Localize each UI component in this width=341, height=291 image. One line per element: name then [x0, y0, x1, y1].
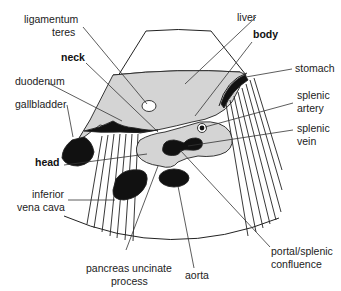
splenic-artery-lumen [200, 126, 205, 131]
label-pancreas-uncinate-process-2: process [111, 275, 148, 287]
label-head: head [35, 156, 60, 168]
sector-right-edge [211, 31, 246, 75]
label-portal-splenic-confluence-2: confluence [271, 258, 322, 270]
label-liver: liver [237, 11, 257, 23]
inferior-vena-cava-shape [113, 170, 147, 200]
label-portal-splenic-confluence-1: portal/splenic [271, 245, 333, 257]
label-duodenum: duodenum [15, 75, 65, 87]
label-aorta: aorta [185, 269, 209, 281]
leader-gallbladder [67, 105, 73, 137]
acoustic-shadow-right [226, 78, 282, 236]
label-body: body [253, 28, 278, 40]
label-splenic-vein-1: splenic [297, 122, 330, 134]
pancreas-ultrasound-diagram: ligamentum teres liver body neck stomach… [0, 0, 341, 291]
label-ligamentum-teres-1: ligamentum [24, 13, 79, 25]
sector-top-arc [146, 30, 211, 32]
leader-stomach [246, 69, 292, 77]
label-inferior-vena-cava-2: vena cava [17, 201, 65, 213]
leader-aorta [178, 186, 194, 268]
label-splenic-artery-1: splenic [297, 89, 330, 101]
aorta-shape [159, 169, 189, 187]
label-stomach: stomach [295, 62, 335, 74]
label-pancreas-uncinate-process-1: pancreas uncinate [86, 262, 172, 274]
label-gallbladder: gallbladder [15, 98, 67, 110]
label-inferior-vena-cava-1: inferior [32, 188, 65, 200]
label-splenic-vein-2: vein [297, 135, 316, 147]
ligamentum-teres-shape [142, 101, 156, 112]
label-ligamentum-teres-2: teres [52, 26, 75, 38]
label-neck: neck [61, 51, 85, 63]
label-splenic-artery-2: artery [297, 102, 325, 114]
